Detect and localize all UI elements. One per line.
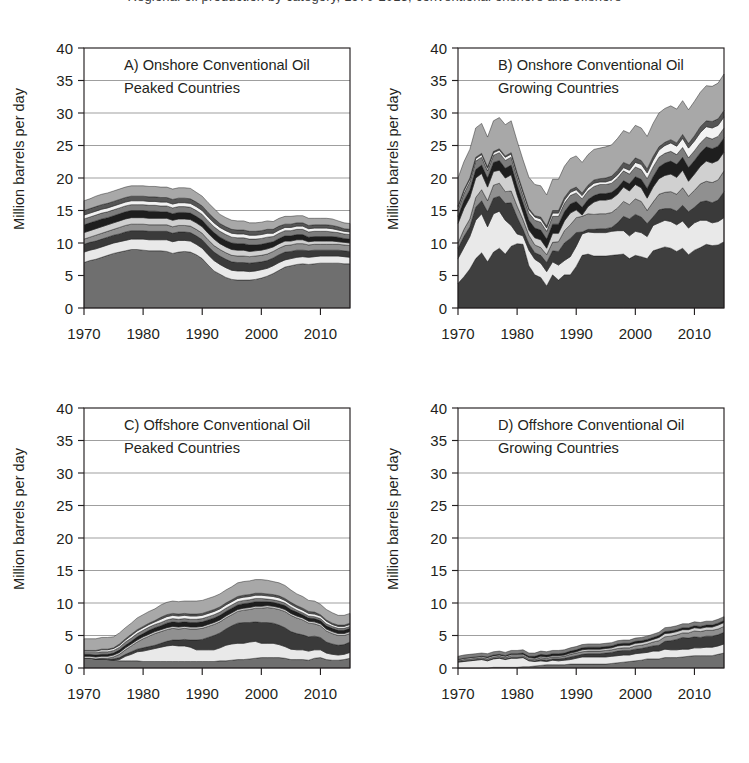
y-tick-label: 15	[430, 562, 447, 579]
y-tick-label: 0	[65, 300, 73, 317]
panel-b: Million barrels per day 0510152025303540…	[374, 14, 749, 374]
panel-a-title-line1: A) Onshore Conventional Oil	[124, 57, 310, 73]
panel-b-title-line1: B) Onshore Conventional Oil	[498, 57, 684, 73]
y-tick-label: 20	[56, 530, 73, 547]
panel-d-title-line2: Growing Countries	[498, 440, 619, 456]
panel-d: Million barrels per day 0510152025303540…	[374, 374, 749, 734]
x-tick-label: 1980	[126, 685, 159, 702]
panel-d-plot: 051015202530354019701980199020002010 D) …	[406, 396, 736, 726]
y-tick-label: 20	[56, 170, 73, 187]
y-tick-label: 30	[430, 465, 447, 482]
x-tick-label: 2000	[619, 325, 652, 342]
panel-d-ylabel: Million barrels per day	[380, 374, 406, 664]
y-tick-label: 40	[56, 40, 73, 57]
x-tick-label: 1980	[500, 685, 533, 702]
x-tick-label: 1990	[560, 325, 593, 342]
panel-d-areas	[458, 617, 724, 668]
y-tick-label: 15	[56, 202, 73, 219]
x-tick-label: 1970	[67, 685, 100, 702]
x-tick-label: 1970	[441, 685, 474, 702]
y-tick-label: 30	[430, 105, 447, 122]
panel-a-svg: 051015202530354019701980199020002010 A) …	[32, 36, 362, 366]
panel-b-plot: 051015202530354019701980199020002010 B) …	[406, 36, 736, 366]
panel-c: Million barrels per day 0510152025303540…	[0, 374, 374, 734]
y-tick-label: 30	[56, 105, 73, 122]
y-tick-label: 20	[430, 170, 447, 187]
y-tick-label: 10	[430, 235, 447, 252]
y-tick-label: 35	[56, 72, 73, 89]
panel-c-title-line2: Peaked Countries	[124, 440, 240, 456]
x-tick-label: 2000	[619, 685, 652, 702]
y-tick-label: 15	[430, 202, 447, 219]
x-tick-label: 1970	[67, 325, 100, 342]
x-tick-label: 1970	[441, 325, 474, 342]
y-tick-label: 5	[65, 267, 73, 284]
y-tick-label: 0	[439, 660, 447, 677]
x-tick-label: 2010	[678, 325, 711, 342]
y-tick-label: 10	[56, 235, 73, 252]
panel-b-svg: 051015202530354019701980199020002010 B) …	[406, 36, 736, 366]
x-tick-label: 1990	[186, 685, 219, 702]
panel-a: Million barrels per day 0510152025303540…	[0, 14, 374, 374]
y-tick-label: 0	[65, 660, 73, 677]
x-tick-label: 2000	[245, 685, 278, 702]
y-tick-label: 25	[56, 497, 73, 514]
y-tick-label: 10	[56, 595, 73, 612]
y-tick-label: 40	[56, 400, 73, 417]
y-tick-label: 40	[430, 40, 447, 57]
y-tick-label: 25	[430, 497, 447, 514]
y-tick-label: 20	[430, 530, 447, 547]
panel-a-plot: 051015202530354019701980199020002010 A) …	[32, 36, 362, 366]
y-tick-label: 35	[430, 72, 447, 89]
x-tick-label: 2010	[678, 685, 711, 702]
y-tick-label: 40	[430, 400, 447, 417]
y-tick-label: 25	[430, 137, 447, 154]
figure-root: Regional oil production by category, 197…	[0, 0, 749, 763]
x-tick-label: 2000	[245, 325, 278, 342]
panel-b-title-line2: Growing Countries	[498, 80, 619, 96]
panel-c-areas	[84, 580, 350, 668]
x-tick-label: 1990	[560, 685, 593, 702]
panel-a-areas	[84, 186, 350, 308]
y-tick-label: 25	[56, 137, 73, 154]
panel-a-ylabel: Million barrels per day	[6, 14, 32, 304]
panel-b-areas	[458, 74, 724, 308]
x-tick-label: 1980	[500, 325, 533, 342]
panel-c-title-line1: C) Offshore Conventional Oil	[124, 417, 310, 433]
panel-grid: Million barrels per day 0510152025303540…	[0, 14, 749, 763]
panel-a-title-line2: Peaked Countries	[124, 80, 240, 96]
y-tick-label: 35	[430, 432, 447, 449]
figure-top-title: Regional oil production by category, 197…	[0, 0, 749, 9]
panel-c-plot: 051015202530354019701980199020002010 C) …	[32, 396, 362, 726]
panel-d-title-line1: D) Offshore Conventional Oil	[498, 417, 684, 433]
y-tick-label: 35	[56, 432, 73, 449]
panel-d-svg: 051015202530354019701980199020002010 D) …	[406, 396, 736, 726]
x-tick-label: 1990	[186, 325, 219, 342]
x-tick-label: 1980	[126, 325, 159, 342]
panel-b-ylabel: Million barrels per day	[380, 14, 406, 304]
y-tick-label: 5	[439, 627, 447, 644]
y-tick-label: 10	[430, 595, 447, 612]
y-tick-label: 5	[65, 627, 73, 644]
y-tick-label: 15	[56, 562, 73, 579]
x-tick-label: 2010	[304, 325, 337, 342]
panel-c-svg: 051015202530354019701980199020002010 C) …	[32, 396, 362, 726]
y-tick-label: 30	[56, 465, 73, 482]
panel-c-ylabel: Million barrels per day	[6, 374, 32, 664]
y-tick-label: 5	[439, 267, 447, 284]
y-tick-label: 0	[439, 300, 447, 317]
x-tick-label: 2010	[304, 685, 337, 702]
